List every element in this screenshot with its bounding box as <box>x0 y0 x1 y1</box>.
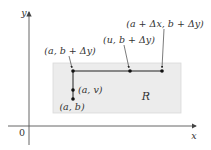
label-region-r: R <box>141 90 150 103</box>
label-a-v: (a, v) <box>78 84 103 95</box>
point-u-b-plus-dy <box>128 69 132 73</box>
leader-a-plus-dx-b-plus-dy <box>162 29 164 68</box>
label-origin: 0 <box>19 127 25 138</box>
label-x-axis: x <box>191 130 197 141</box>
label-a-b-plus-dy: (a, b + Δy) <box>44 45 96 56</box>
point-a-plus-dx-b-plus-dy <box>160 69 164 73</box>
label-a-b: (a, b) <box>59 101 84 112</box>
point-a-v <box>71 88 75 92</box>
label-y-axis: y <box>20 7 27 18</box>
point-a-b-plus-dy <box>71 69 75 73</box>
diagram-canvas: (a + Δx, b + Δy) (u, b + Δy) (a, b + Δy)… <box>0 0 211 150</box>
label-u-b-plus-dy: (u, b + Δy) <box>103 34 155 45</box>
label-a-plus-dx-b-plus-dy: (a + Δx, b + Δy) <box>126 18 204 29</box>
